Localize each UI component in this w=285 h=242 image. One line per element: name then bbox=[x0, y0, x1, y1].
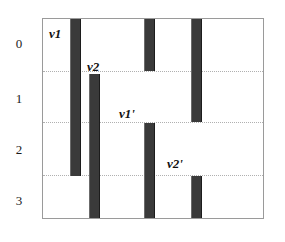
bar-top-right bbox=[191, 19, 202, 122]
row-label-2: 2 bbox=[12, 143, 26, 157]
label-v1: v1 bbox=[49, 27, 61, 40]
bar-v1-prime bbox=[144, 123, 155, 219]
plot-frame: v1 v2 v1' v2' bbox=[42, 18, 264, 219]
row-label-0: 0 bbox=[12, 37, 26, 51]
label-v2-prime: v2' bbox=[167, 157, 183, 170]
label-v2: v2 bbox=[87, 60, 99, 73]
bar-interval-diagram: 0 1 2 3 v1 v2 v1' v2' bbox=[0, 0, 285, 242]
bar-top-mid bbox=[144, 19, 155, 71]
bar-v2 bbox=[89, 74, 100, 219]
row-label-1: 1 bbox=[12, 92, 26, 106]
label-v1-prime: v1' bbox=[119, 107, 135, 120]
row-label-3: 3 bbox=[12, 194, 26, 208]
bar-v2-prime bbox=[191, 176, 202, 219]
bar-v1 bbox=[70, 19, 81, 176]
